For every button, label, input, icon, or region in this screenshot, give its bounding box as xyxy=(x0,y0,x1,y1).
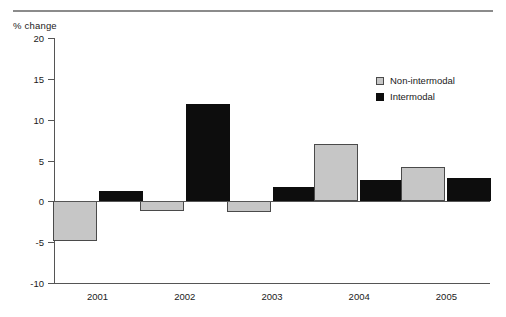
bar-intermodal-2003[interactable] xyxy=(273,187,317,201)
y-tick-mark xyxy=(48,120,54,121)
x-tick-label-2004: 2004 xyxy=(349,291,370,302)
y-tick-label: -5 xyxy=(0,237,44,248)
legend-swatch-icon-non-intermodal xyxy=(376,77,384,85)
y-tick-mark xyxy=(48,283,54,284)
legend-label-non-intermodal: Non-intermodal xyxy=(390,75,455,86)
bar-non-intermodal-2003[interactable] xyxy=(227,201,271,212)
plot-area: 20151050-5-10 20012002200320042005 xyxy=(0,0,506,317)
y-tick-mark xyxy=(48,161,54,162)
y-axis-line xyxy=(54,38,55,283)
x-tick-label-2003: 2003 xyxy=(261,291,282,302)
y-tick-label: 15 xyxy=(0,73,44,84)
x-tick-label-2005: 2005 xyxy=(436,291,457,302)
y-tick-labels: 20151050-5-10 xyxy=(0,0,44,317)
bar-non-intermodal-2005[interactable] xyxy=(401,167,445,201)
legend-item-intermodal[interactable]: Intermodal xyxy=(376,90,455,103)
y-tick-label: 0 xyxy=(0,196,44,207)
y-tick-label: -10 xyxy=(0,278,44,289)
chart-figure: % change 20151050-5-10 20012002200320042… xyxy=(0,0,506,317)
chart-legend: Non-intermodal Intermodal xyxy=(376,74,455,106)
bar-intermodal-2001[interactable] xyxy=(99,191,143,202)
bar-intermodal-2004[interactable] xyxy=(360,180,404,201)
x-tick-label-2001: 2001 xyxy=(87,291,108,302)
y-tick-mark xyxy=(48,79,54,80)
y-tick-label: 10 xyxy=(0,114,44,125)
y-tick-label: 5 xyxy=(0,155,44,166)
legend-label-intermodal: Intermodal xyxy=(390,91,435,102)
bar-non-intermodal-2002[interactable] xyxy=(140,201,184,211)
legend-item-non-intermodal[interactable]: Non-intermodal xyxy=(376,74,455,87)
x-axis-baseline xyxy=(54,283,490,284)
y-tick-mark xyxy=(48,242,54,243)
bar-intermodal-2005[interactable] xyxy=(447,178,491,201)
bar-non-intermodal-2004[interactable] xyxy=(314,144,358,201)
bar-non-intermodal-2001[interactable] xyxy=(53,201,97,241)
y-tick-label: 20 xyxy=(0,33,44,44)
bar-intermodal-2002[interactable] xyxy=(186,104,230,201)
legend-swatch-icon-intermodal xyxy=(376,93,384,101)
y-tick-mark xyxy=(48,38,54,39)
x-tick-label-2002: 2002 xyxy=(174,291,195,302)
zero-line xyxy=(54,201,490,202)
